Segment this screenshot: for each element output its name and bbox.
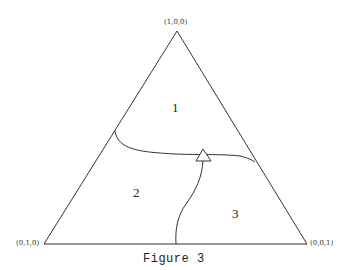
region-label-2: 2 [133, 185, 140, 201]
vertex-label-bottom-left: (0,1,0) [16, 239, 39, 247]
ternary-diagram-figure: (1,0,0) (0,1,0) (0,0,1) 1 2 3 Figure 3 [0, 0, 348, 270]
figure-caption: Figure 3 [143, 252, 205, 266]
region-label-1: 1 [172, 100, 179, 116]
simplex-triangle [44, 31, 307, 244]
boundary-curve-horizontal [115, 131, 255, 162]
vertex-label-top: (1,0,0) [164, 18, 187, 26]
ternary-diagram-svg [0, 0, 348, 270]
region-label-3: 3 [232, 206, 239, 222]
boundary-curve-vertical [176, 152, 204, 244]
vertex-label-bottom-right: (0,0,1) [310, 239, 333, 247]
